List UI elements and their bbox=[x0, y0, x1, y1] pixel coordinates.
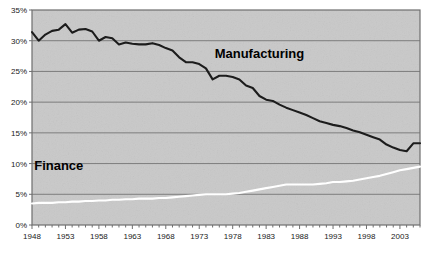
x-tick-label-1998: 1998 bbox=[358, 232, 376, 241]
x-tick-label-1953: 1953 bbox=[57, 232, 75, 241]
y-tick-label-25: 25% bbox=[11, 67, 27, 76]
plot-background-texture bbox=[32, 10, 420, 225]
x-tick-label-1978: 1978 bbox=[224, 232, 242, 241]
chart-container: 0%5%10%15%20%25%30%35% 19481953195819631… bbox=[0, 0, 431, 253]
plot-area bbox=[32, 10, 420, 225]
x-tick-label-1973: 1973 bbox=[190, 232, 208, 241]
y-tick-label-20: 20% bbox=[11, 98, 27, 107]
y-tick-label-15: 15% bbox=[11, 129, 27, 138]
x-tick-label-1983: 1983 bbox=[257, 232, 275, 241]
y-tick-label-10: 10% bbox=[11, 160, 27, 169]
y-tick-label-30: 30% bbox=[11, 37, 27, 46]
x-tick-label-1963: 1963 bbox=[123, 232, 141, 241]
series-annotation-finance: Finance bbox=[34, 158, 83, 173]
line-chart: 0%5%10%15%20%25%30%35% 19481953195819631… bbox=[0, 0, 431, 253]
x-tick-label-1948: 1948 bbox=[23, 232, 41, 241]
x-tick-label-2003: 2003 bbox=[391, 232, 409, 241]
x-tick-label-1988: 1988 bbox=[291, 232, 309, 241]
series-annotation-manufacturing: Manufacturing bbox=[215, 46, 305, 61]
x-tick-label-1993: 1993 bbox=[324, 232, 342, 241]
x-tick-label-1968: 1968 bbox=[157, 232, 175, 241]
y-tick-label-35: 35% bbox=[11, 6, 27, 15]
y-tick-label-5: 5% bbox=[15, 190, 27, 199]
x-tick-label-1958: 1958 bbox=[90, 232, 108, 241]
y-tick-label-0: 0% bbox=[15, 221, 27, 230]
